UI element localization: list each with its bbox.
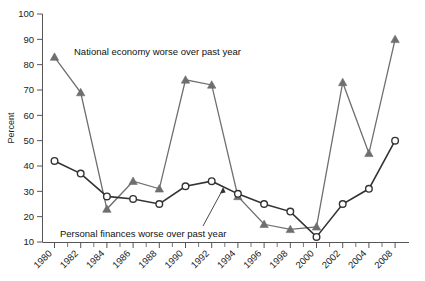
y-axis-tick-label: 50 (23, 135, 34, 146)
personal-finances-marker (208, 178, 215, 185)
y-axis-title: Percent (6, 112, 16, 144)
personal-finances-marker (366, 186, 373, 193)
personal-finances-marker (313, 234, 320, 241)
personal-finances-marker (51, 158, 58, 165)
personal-finances-marker (156, 201, 163, 208)
y-axis-tick-label: 100 (18, 8, 34, 19)
y-axis-tick-label: 40 (23, 160, 34, 171)
personal-finances-marker (392, 137, 399, 144)
personal-finances-marker (261, 201, 268, 208)
personal-finances-marker (130, 196, 137, 203)
personal-finances-marker (339, 201, 346, 208)
y-axis-tick-label: 70 (23, 84, 34, 95)
y-axis-tick-label: 80 (23, 59, 34, 70)
annotation-national-economy: National economy worse over past year (74, 46, 241, 57)
annotation-national-economy-text: National economy worse over past year (74, 46, 241, 57)
annotation-personal-finances-text: Personal finances worse over past year (60, 228, 226, 239)
chart-container: 102030405060708090100 Percent 1980198219… (0, 0, 425, 281)
personal-finances-marker (182, 183, 189, 190)
personal-finances-marker (287, 208, 294, 215)
y-axis-tick-label: 20 (23, 211, 34, 222)
line-chart: 102030405060708090100 Percent 1980198219… (0, 0, 425, 281)
y-axis-tick-label: 10 (23, 236, 34, 247)
y-axis-tick-label: 90 (23, 34, 34, 45)
y-axis-tick-label: 30 (23, 186, 34, 197)
personal-finances-marker (104, 193, 111, 200)
personal-finances-marker (235, 191, 242, 198)
y-axis-tick-label: 60 (23, 110, 34, 121)
personal-finances-marker (77, 170, 84, 177)
